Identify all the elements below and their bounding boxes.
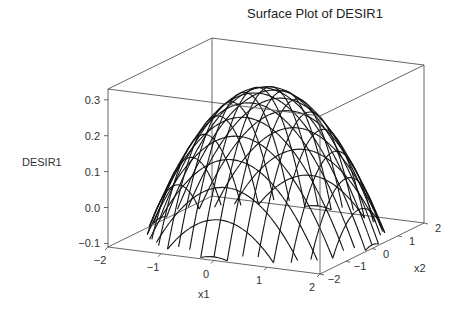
wireframe-line bbox=[277, 92, 279, 93]
wireframe-line bbox=[285, 181, 287, 191]
wireframe-line bbox=[262, 89, 264, 91]
wireframe-line bbox=[233, 128, 235, 132]
wireframe-line bbox=[245, 194, 249, 197]
wireframe-line bbox=[250, 171, 252, 179]
wireframe-line bbox=[282, 102, 286, 105]
wireframe-line bbox=[163, 216, 165, 225]
wireframe-line bbox=[253, 134, 255, 141]
wireframe-line bbox=[236, 202, 238, 213]
wireframe-line bbox=[280, 221, 282, 231]
wireframe-line bbox=[232, 176, 234, 183]
wireframe-line bbox=[266, 103, 268, 107]
wireframe-line bbox=[219, 199, 221, 206]
x2-tick-label: 1 bbox=[409, 235, 415, 247]
wireframe-line bbox=[219, 139, 223, 146]
wireframe-line bbox=[333, 251, 335, 258]
wireframe-line bbox=[227, 248, 229, 261]
wireframe-line bbox=[265, 161, 269, 165]
wireframe-line bbox=[268, 99, 272, 100]
wireframe-line bbox=[285, 129, 287, 136]
wireframe-line bbox=[324, 158, 326, 161]
x2-tick-label: 2 bbox=[435, 222, 441, 234]
wireframe-line bbox=[251, 166, 255, 169]
wireframe-line bbox=[228, 164, 230, 170]
wireframe-line bbox=[306, 142, 308, 146]
wireframe-line bbox=[266, 114, 270, 116]
wireframe-line bbox=[248, 96, 252, 99]
wireframe-line bbox=[252, 179, 254, 187]
wireframe-line bbox=[343, 179, 345, 180]
wireframe-line bbox=[264, 94, 268, 95]
wireframe-line bbox=[275, 120, 277, 125]
wireframe-line bbox=[222, 144, 224, 152]
wireframe-line bbox=[221, 220, 225, 221]
wireframe-line bbox=[295, 233, 297, 242]
wireframe-line bbox=[208, 135, 210, 136]
wireframe-line bbox=[250, 121, 252, 126]
wireframe-line bbox=[277, 116, 279, 120]
wireframe-line bbox=[260, 93, 264, 94]
wireframe-line bbox=[374, 232, 378, 244]
bounding-box-edge bbox=[320, 65, 424, 116]
wireframe-line bbox=[332, 152, 336, 160]
wireframe-line bbox=[275, 93, 277, 95]
wireframe-line bbox=[288, 133, 290, 138]
wireframe-line bbox=[260, 234, 262, 245]
wireframe-line bbox=[308, 188, 310, 194]
wireframe-line bbox=[237, 163, 241, 169]
wireframe-line bbox=[242, 97, 244, 100]
wireframe-line bbox=[201, 245, 203, 258]
wireframe-line bbox=[304, 233, 308, 242]
wireframe-line bbox=[264, 149, 266, 156]
wireframe-line bbox=[260, 172, 264, 176]
wireframe-line bbox=[291, 179, 293, 186]
wireframe-line bbox=[189, 184, 191, 193]
wireframe-line bbox=[346, 225, 350, 236]
wireframe-line bbox=[339, 182, 341, 184]
wireframe-line bbox=[350, 215, 352, 218]
wireframe-line bbox=[297, 118, 299, 121]
wireframe-line bbox=[225, 221, 229, 222]
wireframe-line bbox=[248, 126, 252, 130]
wireframe-line bbox=[298, 224, 300, 233]
wireframe-line bbox=[357, 226, 361, 238]
wireframe-line bbox=[227, 188, 231, 189]
wireframe-line bbox=[282, 211, 284, 220]
wireframe-line bbox=[259, 87, 263, 88]
wireframe-line bbox=[293, 179, 297, 186]
wireframe-line bbox=[341, 214, 345, 225]
wireframe-line bbox=[265, 251, 269, 257]
wireframe-line bbox=[245, 164, 247, 173]
wireframe-line bbox=[240, 182, 242, 192]
wireframe-line bbox=[272, 98, 276, 99]
wireframe-line bbox=[284, 167, 288, 173]
wireframe-line bbox=[295, 154, 299, 160]
wireframe-line bbox=[276, 147, 278, 155]
wireframe-line bbox=[259, 102, 263, 104]
wireframe-line bbox=[256, 181, 258, 190]
wireframe-line bbox=[260, 245, 264, 250]
wireframe-line bbox=[302, 208, 304, 216]
wireframe-line bbox=[198, 168, 202, 171]
wireframe-line bbox=[281, 181, 285, 184]
wireframe-line bbox=[273, 125, 275, 130]
wireframe-line bbox=[203, 232, 205, 244]
wireframe-line bbox=[270, 113, 274, 115]
wireframe-line bbox=[239, 140, 241, 145]
wireframe-line bbox=[251, 140, 253, 147]
wireframe-line bbox=[263, 100, 267, 102]
wireframe-line bbox=[230, 146, 234, 152]
wireframe-line bbox=[317, 168, 319, 172]
x1-tick-label: 1 bbox=[256, 274, 262, 286]
wireframe-line bbox=[249, 210, 251, 221]
wireframe-line bbox=[317, 190, 321, 199]
wireframe-line bbox=[294, 116, 296, 122]
wireframe-line bbox=[324, 237, 328, 247]
wireframe-line bbox=[335, 229, 339, 240]
wireframe-line bbox=[315, 160, 319, 168]
wireframe-line bbox=[326, 208, 330, 218]
z-tick-label: 0.3 bbox=[85, 94, 100, 106]
wireframe-line bbox=[288, 101, 290, 103]
wireframe-line bbox=[330, 194, 332, 198]
x2-tick bbox=[320, 274, 324, 275]
